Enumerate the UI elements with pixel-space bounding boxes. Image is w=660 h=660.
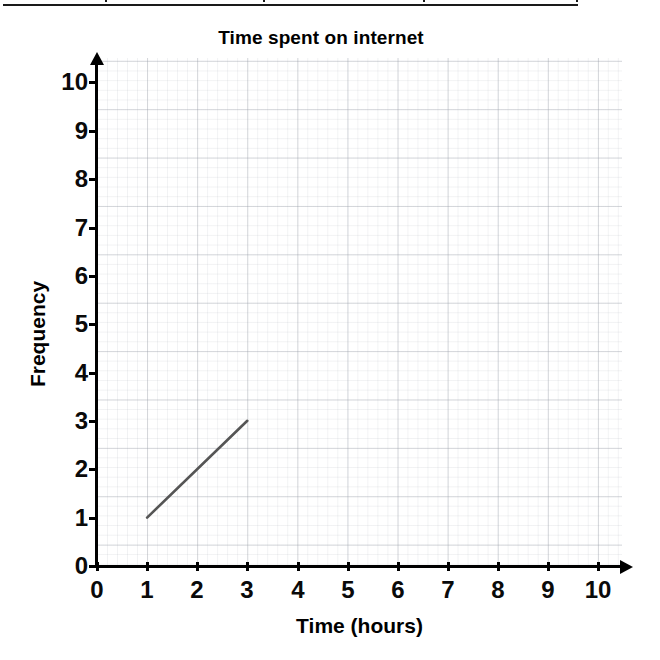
y-tick-label-4: 4 bbox=[48, 361, 88, 385]
x-tick-label-7: 7 bbox=[425, 578, 471, 602]
x-tick-label-6: 6 bbox=[375, 578, 421, 602]
y-tick-1 bbox=[89, 517, 98, 520]
x-tick-6 bbox=[397, 562, 400, 571]
chart-page: Time spent on internet 0 1 2 3 4 5 6 7 8… bbox=[0, 0, 660, 660]
x-axis-line bbox=[95, 565, 623, 568]
partial-table-fragment bbox=[3, 0, 578, 6]
y-tick-label-3: 3 bbox=[48, 409, 88, 433]
x-tick-10 bbox=[597, 562, 600, 571]
y-tick-label-9: 9 bbox=[48, 119, 88, 143]
y-tick-3 bbox=[89, 420, 98, 423]
y-tick-4 bbox=[89, 372, 98, 375]
y-tick-2 bbox=[89, 468, 98, 471]
x-axis-title: Time (hours) bbox=[97, 614, 622, 638]
y-tick-5 bbox=[89, 323, 98, 326]
table-column-divider bbox=[263, 0, 265, 2]
y-tick-label-8: 8 bbox=[48, 167, 88, 191]
y-tick-6 bbox=[89, 275, 98, 278]
y-tick-7 bbox=[89, 227, 98, 230]
y-tick-label-7: 7 bbox=[48, 216, 88, 240]
y-tick-9 bbox=[89, 130, 98, 133]
plot-grid bbox=[97, 58, 622, 566]
x-tick-3 bbox=[246, 562, 249, 571]
x-tick-9 bbox=[547, 562, 550, 571]
table-column-divider bbox=[423, 0, 425, 2]
y-tick-8 bbox=[89, 178, 98, 181]
x-tick-label-4: 4 bbox=[275, 578, 321, 602]
table-right-edge bbox=[576, 0, 578, 2]
x-tick-7 bbox=[447, 562, 450, 571]
y-axis-line bbox=[95, 62, 98, 568]
x-tick-label-2: 2 bbox=[174, 578, 220, 602]
y-tick-label-0: 0 bbox=[48, 554, 88, 578]
y-tick-label-5: 5 bbox=[48, 312, 88, 336]
y-tick-label-10: 10 bbox=[48, 70, 88, 94]
x-tick-5 bbox=[347, 562, 350, 571]
y-tick-10 bbox=[89, 81, 98, 84]
chart-title: Time spent on internet bbox=[0, 27, 660, 49]
x-tick-label-8: 8 bbox=[475, 578, 521, 602]
y-tick-label-2: 2 bbox=[48, 457, 88, 481]
x-tick-label-5: 5 bbox=[325, 578, 371, 602]
x-tick-label-9: 9 bbox=[525, 578, 571, 602]
y-tick-label-6: 6 bbox=[48, 264, 88, 288]
x-tick-8 bbox=[497, 562, 500, 571]
x-tick-2 bbox=[196, 562, 199, 571]
y-axis-arrow-icon bbox=[90, 52, 104, 65]
x-tick-label-3: 3 bbox=[224, 578, 270, 602]
x-tick-4 bbox=[297, 562, 300, 571]
x-tick-label-0: 0 bbox=[74, 578, 120, 602]
table-column-divider bbox=[105, 0, 107, 2]
y-axis-title: Frequency bbox=[26, 234, 50, 434]
x-tick-label-10: 10 bbox=[575, 578, 621, 602]
x-tick-label-1: 1 bbox=[124, 578, 170, 602]
x-tick-0 bbox=[96, 562, 99, 571]
x-tick-1 bbox=[146, 562, 149, 571]
y-tick-label-1: 1 bbox=[48, 506, 88, 530]
x-axis-arrow-icon bbox=[620, 560, 633, 574]
